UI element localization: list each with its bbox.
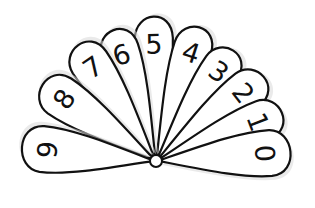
petal-number-5: 5 — [145, 28, 163, 59]
number-fan: 5463728190 — [0, 0, 315, 208]
pivot-rivet — [150, 155, 162, 167]
petal-number-9: 9 — [31, 139, 64, 159]
petal-number-0: 0 — [249, 144, 281, 163]
